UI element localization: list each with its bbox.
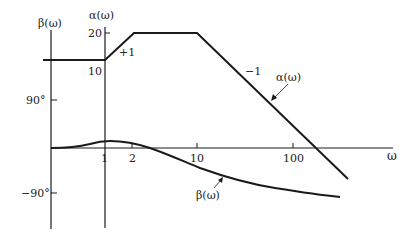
phase-axis-label: β(ω) (38, 17, 62, 30)
tick-label-10: 10 (88, 65, 102, 78)
tick-label-20: 20 (88, 27, 102, 40)
alpha-curve-label: α(ω) (276, 71, 301, 84)
alpha-arrowhead-icon (271, 94, 277, 101)
tick-label-minus90: −90° (21, 187, 50, 200)
slope-rise-label: +1 (119, 46, 135, 59)
beta-curve-label: β(ω) (196, 189, 220, 202)
alpha-label-arrow (274, 84, 288, 98)
bode-diagram: β(ω) α(ω) 20 10 90° −90° 1 2 10 100 ω +1… (0, 0, 417, 237)
slope-fall-label: −1 (245, 65, 261, 78)
tick-label-1: 1 (101, 152, 108, 165)
bode-plot-svg: β(ω) α(ω) 20 10 90° −90° 1 2 10 100 ω +1… (0, 0, 417, 237)
frequency-axis-label: ω (387, 149, 397, 163)
tick-label-100: 100 (283, 152, 304, 165)
tick-label-2: 2 (129, 152, 136, 165)
tick-label-10-freq: 10 (190, 152, 204, 165)
magnitude-axis-label: α(ω) (89, 9, 114, 22)
tick-label-90: 90° (26, 94, 46, 107)
